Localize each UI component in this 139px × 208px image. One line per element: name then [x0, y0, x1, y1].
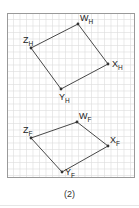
vertex-point-y-h — [60, 88, 63, 91]
vertex-label-y-h: YH — [59, 92, 70, 104]
vertex-point-y-f — [61, 171, 64, 174]
quadrilateral-edges — [31, 122, 108, 172]
vertex-point-w-h — [77, 23, 80, 26]
vertex-label-z-f: ZF — [23, 125, 33, 137]
quadrilateral-f: WFXFYFZF — [23, 111, 120, 179]
quadrilaterals: WHXHYHZHWFXFYFZF — [23, 13, 123, 179]
vertex-point-z-h — [30, 47, 33, 50]
vertex-label-w-f: WF — [79, 111, 92, 123]
vertex-point-x-h — [107, 63, 110, 66]
figure: WHXHYHZHWFXFYFZF (2) — [0, 0, 139, 208]
vertex-label-x-h: XH — [112, 59, 123, 71]
quadrilateral-edges — [31, 24, 108, 89]
vertex-label-z-h: ZH — [23, 35, 34, 47]
figure-caption: (2) — [0, 189, 139, 200]
vertex-point-x-f — [107, 145, 110, 148]
grid-diagram: WHXHYHZHWFXFYFZF — [0, 0, 139, 185]
vertex-point-z-f — [30, 137, 33, 140]
vertex-point-w-f — [76, 121, 79, 124]
divider — [0, 205, 139, 206]
